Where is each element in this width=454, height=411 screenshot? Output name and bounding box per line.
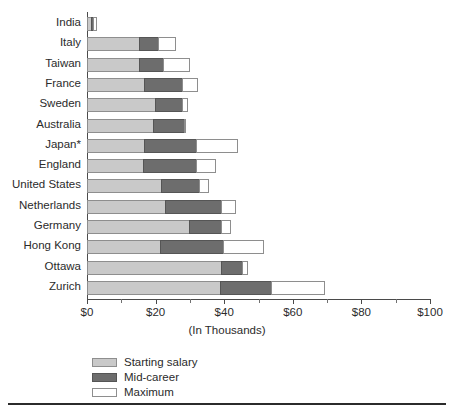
bar-segment-maximum <box>199 179 209 193</box>
x-tick <box>293 299 294 304</box>
x-tick-minor <box>327 299 328 303</box>
x-tick-label: $100 <box>417 306 443 319</box>
category-label: Hong Kong <box>23 238 81 252</box>
bar-segment-starting-salary <box>87 200 166 214</box>
stacked-bar <box>87 119 186 133</box>
category-label: Japan* <box>45 137 81 151</box>
bar-segment-starting-salary <box>87 58 140 72</box>
bar-segment-mid-career <box>160 240 224 254</box>
stacked-bar <box>87 159 216 173</box>
category-label: Zurich <box>49 279 81 293</box>
legend-swatch-icon <box>92 358 117 367</box>
bar-segment-starting-salary <box>87 159 144 173</box>
chart-row: Australia <box>87 119 430 133</box>
stacked-bar <box>87 98 188 112</box>
bar-segment-maximum <box>182 98 188 112</box>
category-label: United States <box>12 177 81 191</box>
stacked-bar <box>87 281 325 295</box>
x-tick <box>156 299 157 304</box>
bar-segment-mid-career <box>144 78 183 92</box>
x-axis-title: (In Thousands) <box>0 324 454 336</box>
bar-segment-starting-salary <box>87 78 145 92</box>
category-label: India <box>56 15 81 29</box>
bar-segment-starting-salary <box>87 37 140 51</box>
bar-segment-mid-career <box>139 58 164 72</box>
category-label: Germany <box>34 218 81 232</box>
bar-segment-maximum <box>158 37 176 51</box>
chart-row: Netherlands <box>87 200 430 214</box>
category-label: Ottawa <box>45 259 81 273</box>
legend-item: Maximum <box>92 386 198 399</box>
bar-segment-maximum <box>182 78 198 92</box>
stacked-bar <box>87 17 97 31</box>
x-tick-label: $60 <box>283 306 302 319</box>
category-label: Australia <box>36 117 81 131</box>
chart-row: Zurich <box>87 281 430 295</box>
stacked-bar <box>87 78 198 92</box>
stacked-bar <box>87 240 264 254</box>
bar-segment-starting-salary <box>87 240 161 254</box>
bar-segment-mid-career <box>221 261 243 275</box>
bar-segment-mid-career <box>139 37 159 51</box>
bar-segment-mid-career <box>144 139 196 153</box>
x-tick <box>224 299 225 304</box>
x-tick-label: $20 <box>146 306 165 319</box>
bar-segment-maximum <box>242 261 248 275</box>
chart-row: France <box>87 78 430 92</box>
category-label: Sweden <box>39 96 81 110</box>
chart-row: Sweden <box>87 98 430 112</box>
legend-swatch-icon <box>92 373 117 382</box>
bar-segment-maximum <box>93 17 97 31</box>
stacked-bar <box>87 58 190 72</box>
bar-segment-maximum <box>184 119 187 133</box>
bar-segment-mid-career <box>153 119 185 133</box>
category-label: Netherlands <box>19 198 81 212</box>
bar-segment-maximum <box>223 240 263 254</box>
bar-segment-mid-career <box>161 179 200 193</box>
legend-label: Mid-career <box>124 371 179 384</box>
x-tick-minor <box>396 299 397 303</box>
bar-segment-starting-salary <box>87 98 156 112</box>
x-tick-minor <box>190 299 191 303</box>
legend-label: Maximum <box>124 386 174 399</box>
bar-segment-maximum <box>221 220 231 234</box>
bar-segment-mid-career <box>143 159 197 173</box>
x-tick-minor <box>121 299 122 303</box>
bar-segment-maximum <box>221 200 236 214</box>
bar-segment-maximum <box>163 58 190 72</box>
chart-row: Japan* <box>87 139 430 153</box>
bar-segment-maximum <box>196 159 216 173</box>
stacked-bar <box>87 261 248 275</box>
chart-row: Ottawa <box>87 261 430 275</box>
bar-segment-starting-salary <box>87 261 222 275</box>
bar-segment-maximum <box>196 139 238 153</box>
bar-segment-mid-career <box>165 200 223 214</box>
bar-segment-starting-salary <box>87 220 190 234</box>
chart-row: United States <box>87 179 430 193</box>
stacked-bar <box>87 139 238 153</box>
x-tick <box>430 299 431 304</box>
chart-row: Germany <box>87 220 430 234</box>
bar-segment-starting-salary <box>87 179 162 193</box>
x-tick-label: $80 <box>352 306 371 319</box>
footer-divider <box>8 403 446 405</box>
plot-area: IndiaItalyTaiwanFranceSwedenAustraliaJap… <box>87 12 430 298</box>
legend-swatch-icon <box>92 388 117 397</box>
chart-row: Taiwan <box>87 58 430 72</box>
stacked-bar <box>87 179 209 193</box>
bar-segment-starting-salary <box>87 139 145 153</box>
x-tick <box>361 299 362 304</box>
legend-item: Mid-career <box>92 371 198 384</box>
stacked-bar <box>87 37 176 51</box>
chart-row: India <box>87 17 430 31</box>
category-label: England <box>39 157 81 171</box>
bar-segment-mid-career <box>189 220 223 234</box>
salary-bar-chart: IndiaItalyTaiwanFranceSwedenAustraliaJap… <box>0 0 454 411</box>
chart-row: England <box>87 159 430 173</box>
bar-segment-mid-career <box>220 281 272 295</box>
category-label: Italy <box>60 35 81 49</box>
legend-label: Starting salary <box>124 356 198 369</box>
bar-segment-mid-career <box>155 98 183 112</box>
chart-row: Italy <box>87 37 430 51</box>
chart-legend: Starting salaryMid-careerMaximum <box>92 356 198 401</box>
